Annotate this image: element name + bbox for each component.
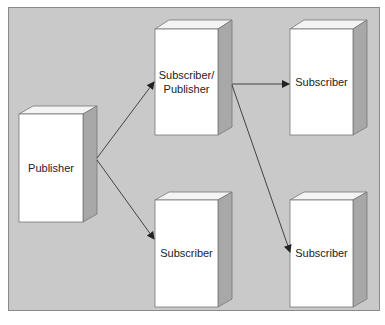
edge-subpub-to-subscriber-bottom-right bbox=[232, 85, 290, 252]
node-label-line-1: Subscriber/ bbox=[155, 68, 218, 82]
node-label-subscriber-top-right: Subscriber bbox=[290, 75, 353, 89]
node-label-subscriber-publisher: Subscriber/ Publisher bbox=[155, 68, 218, 96]
node-label-subscriber-bottom-middle: Subscriber bbox=[155, 246, 218, 260]
node-label-line-2: Publisher bbox=[155, 82, 218, 96]
node-label-subscriber-bottom-right: Subscriber bbox=[290, 246, 353, 260]
edge-publisher-to-subscriber-bottom bbox=[97, 160, 154, 239]
edge-publisher-to-subpub bbox=[97, 82, 154, 158]
node-label-publisher: Publisher bbox=[19, 161, 83, 175]
